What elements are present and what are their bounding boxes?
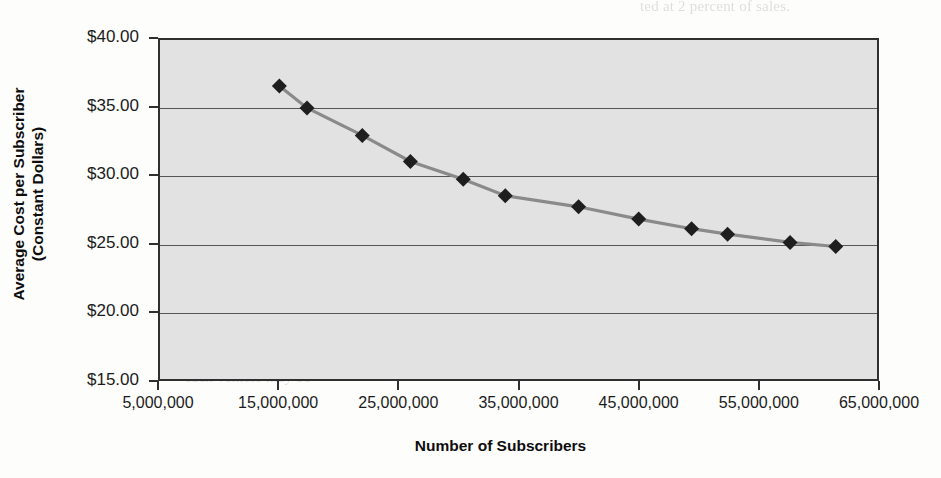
cost-per-subscriber-chart: Average Cost per Subscriber (Constant Do… <box>0 0 941 478</box>
series-line <box>279 86 835 247</box>
x-axis-tick-mark <box>758 381 760 390</box>
data-point-marker <box>498 188 513 203</box>
data-point-marker <box>631 212 646 227</box>
data-point-marker <box>571 199 586 214</box>
data-point-marker <box>355 128 370 143</box>
series-markers <box>272 79 843 255</box>
x-axis-tick-mark <box>638 381 640 390</box>
x-axis-tick-mark <box>878 381 880 390</box>
x-axis-tick-label: 65,000,000 <box>799 394 941 412</box>
x-axis-title-text: Number of Subscribers <box>415 437 586 454</box>
x-axis-tick-mark <box>277 381 279 390</box>
x-axis-title: Number of Subscribers <box>0 437 941 455</box>
x-axis-tick-mark <box>518 381 520 390</box>
data-point-marker <box>720 227 735 242</box>
x-axis-tick-mark <box>157 381 159 390</box>
data-point-marker <box>684 221 699 236</box>
data-point-marker <box>456 172 471 187</box>
data-point-marker <box>403 154 418 169</box>
data-point-marker <box>783 235 798 250</box>
x-axis-tick-mark <box>397 381 399 390</box>
data-point-marker <box>828 239 843 254</box>
